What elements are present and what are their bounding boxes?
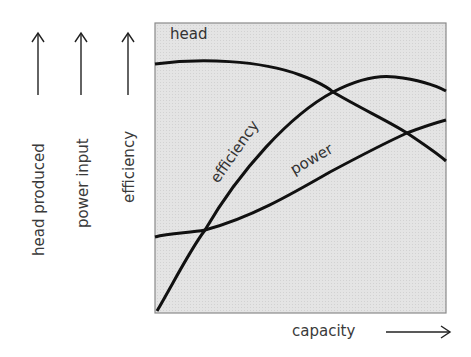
x-label-capacity: capacity	[292, 322, 355, 340]
y-label-efficiency: efficiency	[120, 131, 138, 203]
up-arrow-icon	[75, 33, 87, 95]
up-arrow-icon	[122, 33, 134, 95]
up-arrow-icon	[32, 33, 44, 95]
y-label-power-input: power input	[74, 138, 92, 228]
pump-characteristic-diagram: head efficiency power head produced powe…	[0, 0, 471, 357]
head-curve-label: head	[170, 25, 207, 43]
right-arrow-icon	[386, 326, 450, 338]
y-label-head-produced: head produced	[30, 143, 48, 256]
